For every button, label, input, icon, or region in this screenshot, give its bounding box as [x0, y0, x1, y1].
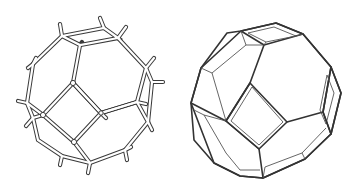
- polyhedron-outline: [191, 23, 341, 178]
- figure-stage: [0, 0, 356, 188]
- solid-polyhedron-cage: [0, 0, 356, 188]
